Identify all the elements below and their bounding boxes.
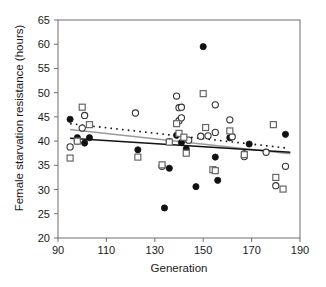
chart-figure: 20253035404550556065 90110130150170190 F…: [0, 0, 326, 287]
data-point-open-square: [203, 125, 209, 131]
data-point-open-circle: [212, 102, 218, 108]
data-point-filled-circle: [215, 177, 221, 183]
data-point-filled-circle: [161, 205, 167, 211]
y-axis-title: Female starvation resistance (hours): [13, 3, 25, 233]
trendlines-group: [70, 124, 290, 154]
data-point-open-square: [200, 91, 206, 97]
data-point-open-circle: [229, 134, 235, 140]
data-point-filled-circle: [166, 165, 172, 171]
data-point-filled-circle: [212, 154, 218, 160]
data-point-open-square: [86, 122, 92, 128]
data-point-open-square: [241, 152, 247, 158]
data-point-open-circle: [198, 133, 204, 139]
data-point-open-square: [174, 121, 180, 127]
data-point-open-circle: [263, 149, 269, 155]
data-point-filled-circle: [135, 147, 141, 153]
data-point-open-square: [74, 138, 80, 144]
data-point-open-circle: [212, 129, 218, 135]
x-tick-label: 190: [280, 245, 320, 255]
data-point-open-circle: [79, 125, 85, 131]
x-tick-label: 170: [232, 245, 272, 255]
data-point-filled-circle: [67, 116, 73, 122]
x-tick-label: 130: [135, 245, 175, 255]
data-point-open-circle: [178, 115, 184, 121]
data-point-open-circle: [227, 117, 233, 123]
data-point-open-circle: [82, 112, 88, 118]
x-tick-label: 110: [86, 245, 126, 255]
data-point-open-square: [280, 186, 286, 192]
data-point-open-circle: [132, 110, 138, 116]
data-point-open-square: [135, 154, 141, 160]
data-point-open-circle: [282, 163, 288, 169]
data-point-open-square: [159, 162, 165, 168]
data-point-filled-circle: [246, 141, 252, 147]
data-point-filled-circle: [86, 135, 92, 141]
x-tick-label: 150: [183, 245, 223, 255]
data-point-open-square: [227, 128, 233, 134]
data-point-open-circle: [173, 93, 179, 99]
data-point-open-circle: [205, 133, 211, 139]
data-point-open-square: [273, 174, 279, 180]
data-point-open-square: [270, 122, 276, 128]
data-point-open-circle: [178, 104, 184, 110]
data-point-filled-circle: [282, 131, 288, 137]
x-axis-title: Generation: [58, 262, 300, 274]
y-tick-label: 20: [16, 233, 50, 243]
data-point-open-square: [166, 139, 172, 145]
data-point-filled-circle: [193, 184, 199, 190]
data-point-open-square: [212, 168, 218, 174]
x-tick-label: 90: [38, 245, 78, 255]
data-point-filled-circle: [82, 140, 88, 146]
data-point-filled-circle: [200, 44, 206, 50]
data-point-open-square: [67, 155, 73, 161]
data-point-open-square: [181, 134, 187, 140]
data-point-open-square: [183, 150, 189, 156]
data-point-open-circle: [273, 183, 279, 189]
data-point-open-square: [79, 104, 85, 110]
data-point-open-circle: [67, 144, 73, 150]
